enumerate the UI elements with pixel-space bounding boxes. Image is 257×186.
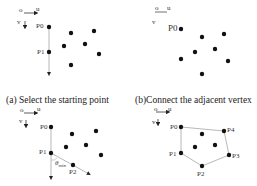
v-axis-label: v	[17, 18, 21, 26]
panel-b	[155, 12, 230, 76]
p0-label: P0	[168, 23, 178, 33]
v-axis-label: v	[152, 118, 156, 126]
origin-label: o	[154, 105, 158, 113]
p1-label: P1	[37, 48, 44, 56]
u-axis-label: u	[168, 105, 172, 113]
caption-a: (a) Select the starting point	[6, 95, 109, 105]
p2-label: P2	[69, 168, 76, 176]
panel-d	[156, 112, 231, 168]
p0-label: P0	[170, 123, 177, 131]
p0-label: P0	[36, 22, 43, 30]
p4-label: P4	[227, 126, 234, 134]
p1-label: P1	[39, 148, 46, 156]
origin-label: o	[20, 106, 24, 114]
v-axis-label: v	[19, 117, 23, 125]
origin-label: o	[155, 4, 159, 12]
v-axis-label: v	[152, 18, 156, 26]
caption-b: (b)Connect the adjacent vertex	[135, 95, 252, 105]
p3-label: P3	[232, 152, 239, 160]
p2-label: P2	[197, 170, 204, 178]
p1-label: P1	[169, 150, 176, 158]
u-axis-label: u	[167, 4, 171, 12]
p0-label: P0	[40, 123, 47, 131]
origin-label: o	[19, 6, 23, 14]
theta-min-label: θmin	[55, 159, 66, 168]
u-axis-label: u	[37, 105, 41, 113]
u-axis-label: u	[36, 5, 40, 13]
